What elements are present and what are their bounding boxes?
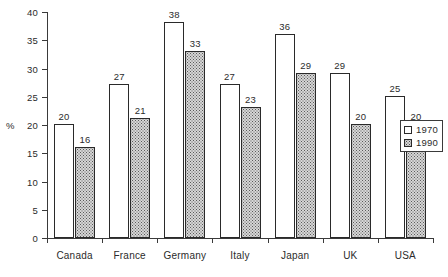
x-tick-3 [212, 238, 213, 243]
bar-value-italy-1990: 23 [237, 95, 265, 105]
legend-item-1970: 1970 [404, 124, 438, 135]
bar-value-canada-1990: 16 [71, 135, 99, 145]
bar-value-italy-1970: 27 [216, 72, 244, 82]
category-label-usa: USA [365, 250, 445, 261]
y-tick-label-40: 40 [12, 8, 38, 18]
legend-swatch-1970-icon [404, 126, 412, 134]
legend-label-1990: 1990 [416, 138, 438, 148]
y-tick-label-35: 35 [12, 36, 38, 46]
y-tick-label-10: 10 [12, 178, 38, 188]
x-tick-6 [378, 238, 379, 243]
x-tick-4 [268, 238, 269, 243]
y-tick-label-20: 20 [12, 121, 38, 131]
bar-value-france-1990: 21 [126, 106, 154, 116]
y-tick-label-5: 5 [12, 206, 38, 216]
y-tick-40 [42, 12, 48, 13]
bar-value-usa-1970: 25 [381, 84, 409, 94]
bar-value-germany-1990: 33 [181, 39, 209, 49]
x-tick-0 [47, 238, 48, 243]
legend-item-1990: 1990 [404, 137, 438, 148]
x-tick-1 [102, 238, 103, 243]
y-tick-label-0: 0 [12, 234, 38, 244]
x-axis-line [47, 238, 433, 239]
bar-italy-1990 [241, 107, 261, 238]
y-tick-label-30: 30 [12, 65, 38, 75]
y-tick-15 [42, 153, 48, 154]
bar-value-japan-1970: 36 [271, 22, 299, 32]
y-tick-label-25: 25 [12, 93, 38, 103]
bar-value-germany-1970: 38 [160, 10, 188, 20]
y-tick-5 [42, 210, 48, 211]
bar-italy-1970 [220, 84, 240, 238]
y-tick-25 [42, 97, 48, 98]
bar-japan-1990 [296, 73, 316, 238]
legend-label-1970: 1970 [416, 125, 438, 135]
bar-canada-1990 [75, 147, 95, 238]
bar-germany-1990 [185, 51, 205, 238]
bar-value-uk-1990: 20 [347, 112, 375, 122]
y-tick-30 [42, 69, 48, 70]
bar-value-uk-1970: 29 [326, 61, 354, 71]
x-tick-5 [323, 238, 324, 243]
x-tick-end [433, 238, 434, 243]
x-tick-2 [157, 238, 158, 243]
legend: 1970 1990 [400, 120, 443, 152]
y-tick-20 [42, 125, 48, 126]
bar-uk-1990 [351, 124, 371, 238]
y-tick-10 [42, 182, 48, 183]
bar-chart: % 0510152025303540 201627213833272336292… [0, 0, 448, 277]
bar-germany-1970 [164, 22, 184, 238]
bar-value-france-1970: 27 [105, 72, 133, 82]
y-tick-35 [42, 40, 48, 41]
legend-swatch-1990-icon [404, 139, 412, 147]
bar-value-canada-1970: 20 [50, 112, 78, 122]
bar-value-japan-1990: 29 [292, 61, 320, 71]
bar-france-1990 [130, 118, 150, 238]
bar-uk-1970 [330, 73, 350, 238]
y-tick-label-15: 15 [12, 149, 38, 159]
